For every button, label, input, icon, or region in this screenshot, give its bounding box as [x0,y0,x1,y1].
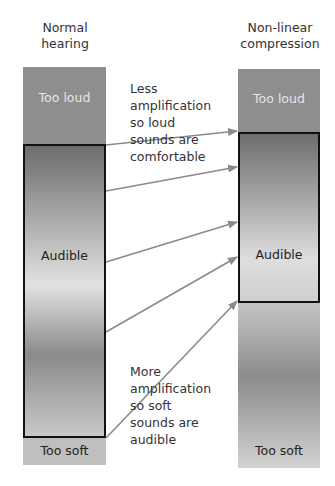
arrow-3 [106,222,237,262]
upper-annotation: Less amplification so loud sounds are co… [130,80,211,165]
annotation-line: sounds are [130,131,211,148]
arrow-2 [106,167,237,191]
annotation-line: More [130,363,211,380]
annotation-line: amplification [130,97,211,114]
annotation-line: Less [130,80,211,97]
lower-annotation: More amplification so soft sounds are au… [130,363,211,448]
annotation-line: amplification [130,380,211,397]
annotation-line: audible [130,431,211,448]
annotation-line: comfortable [130,148,211,165]
annotation-line: sounds are [130,414,211,431]
annotation-line: so loud [130,114,211,131]
annotation-line: so soft [130,397,211,414]
